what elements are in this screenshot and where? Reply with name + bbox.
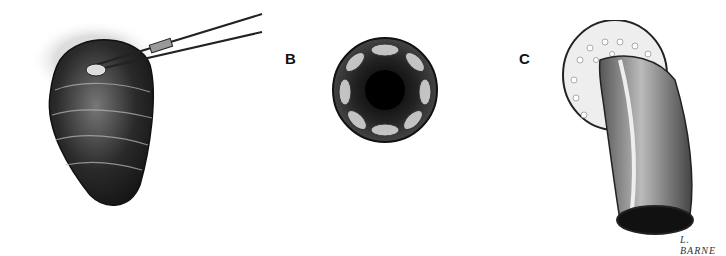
everted-bowel-illustration [560, 20, 726, 249]
artist-signature: L. BARNE [680, 234, 726, 256]
panel-c-label: C [519, 50, 530, 67]
panel-b-label: B [285, 50, 296, 67]
panel-b [320, 20, 450, 150]
panel-c [560, 20, 726, 249]
bowel-with-scissors-illustration [0, 0, 280, 249]
bowel-cross-section-illustration [320, 20, 450, 150]
panel-a [0, 0, 280, 249]
